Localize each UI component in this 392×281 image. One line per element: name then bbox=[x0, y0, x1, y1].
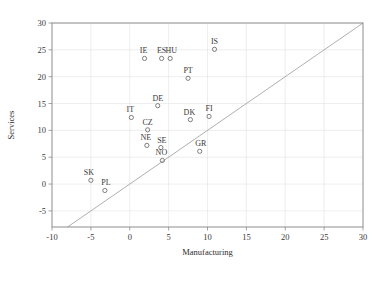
data-point[interactable]: IE bbox=[140, 46, 148, 60]
data-point-label: DK bbox=[184, 108, 196, 117]
data-point[interactable]: IT bbox=[127, 105, 135, 119]
y-tick-label: 30 bbox=[38, 18, 47, 28]
data-point-label: NO bbox=[156, 148, 168, 157]
x-tick-label: 15 bbox=[242, 232, 251, 242]
y-tick-label: -5 bbox=[39, 206, 46, 216]
data-point-label: GR bbox=[195, 139, 207, 148]
data-point-label: SE bbox=[157, 136, 166, 145]
x-tick-label: -10 bbox=[46, 232, 57, 242]
data-point-marker[interactable] bbox=[145, 143, 149, 147]
y-tick-label: 25 bbox=[38, 45, 47, 55]
data-point-label: CZ bbox=[143, 118, 153, 127]
data-point-label: IE bbox=[140, 46, 148, 55]
data-point[interactable]: GR bbox=[195, 139, 207, 153]
data-point-marker[interactable] bbox=[156, 104, 160, 108]
data-point-marker[interactable] bbox=[146, 128, 150, 132]
x-tick-label: 30 bbox=[359, 232, 368, 242]
data-point-marker[interactable] bbox=[198, 149, 202, 153]
data-point[interactable]: DE bbox=[152, 94, 163, 108]
data-point-label: IT bbox=[127, 105, 135, 114]
y-tick-label: 10 bbox=[38, 125, 47, 135]
data-point-marker[interactable] bbox=[103, 188, 107, 192]
data-point[interactable]: CZ bbox=[143, 118, 153, 132]
gridlines bbox=[52, 23, 363, 227]
data-point-marker[interactable] bbox=[212, 47, 216, 51]
data-point[interactable]: FI bbox=[205, 104, 212, 118]
data-point[interactable]: PL bbox=[101, 178, 110, 192]
data-point[interactable]: SK bbox=[84, 168, 94, 182]
x-tick-label: -5 bbox=[87, 232, 94, 242]
data-point-label: FI bbox=[205, 104, 212, 113]
data-point-marker[interactable] bbox=[160, 56, 164, 60]
data-point[interactable]: DK bbox=[184, 108, 196, 122]
data-point[interactable]: IS bbox=[211, 37, 218, 51]
data-point-marker[interactable] bbox=[188, 118, 192, 122]
y-tick-label: 5 bbox=[42, 152, 46, 162]
data-point-label: PL bbox=[101, 178, 110, 187]
x-tick-label: 0 bbox=[128, 232, 132, 242]
x-tick-label: 20 bbox=[281, 232, 290, 242]
x-tick-label: 10 bbox=[203, 232, 212, 242]
data-point[interactable]: NO bbox=[156, 148, 168, 162]
data-point[interactable]: PT bbox=[183, 66, 192, 80]
x-tick-label: 25 bbox=[320, 232, 329, 242]
identity-reference-line bbox=[68, 23, 363, 227]
data-point-label: IS bbox=[211, 37, 218, 46]
data-point-label: DE bbox=[152, 94, 163, 103]
y-axis: -5051015202530 bbox=[38, 18, 53, 216]
x-axis: -10-5051015202530 bbox=[46, 227, 367, 242]
data-point[interactable]: HU bbox=[165, 46, 177, 60]
data-point-label: PT bbox=[183, 66, 192, 75]
y-tick-label: 0 bbox=[42, 179, 46, 189]
chart-canvas: -10-5051015202530-5051015202530Manufactu… bbox=[0, 0, 392, 281]
data-point-label: HU bbox=[165, 46, 177, 55]
scatter-chart: -10-5051015202530-5051015202530Manufactu… bbox=[0, 0, 392, 281]
data-point-label: SK bbox=[84, 168, 94, 177]
x-tick-label: 5 bbox=[167, 232, 171, 242]
y-tick-label: 20 bbox=[38, 72, 47, 82]
data-point-label: NE bbox=[141, 133, 152, 142]
data-point[interactable]: NE bbox=[141, 133, 152, 147]
y-axis-title: Services bbox=[6, 111, 16, 140]
data-point-marker[interactable] bbox=[142, 56, 146, 60]
x-axis-title: Manufacturing bbox=[182, 247, 233, 257]
y-tick-label: 15 bbox=[38, 99, 47, 109]
